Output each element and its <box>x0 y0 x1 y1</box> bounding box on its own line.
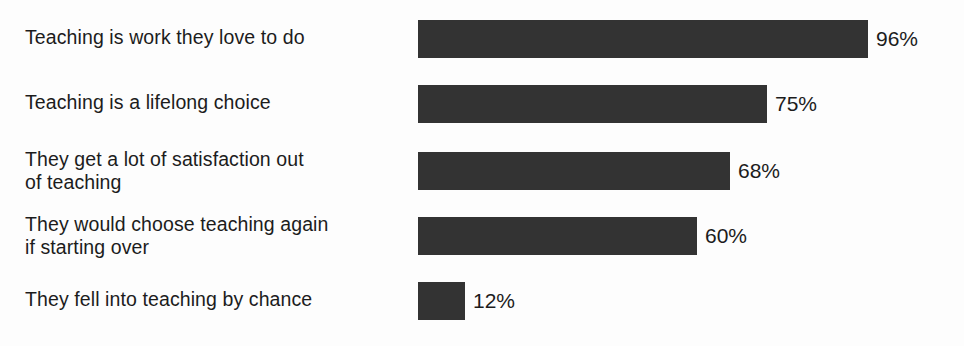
bar-track: 12% <box>418 282 465 320</box>
bar-track: 68% <box>418 152 730 190</box>
bar-row: They get a lot of satisfaction out of te… <box>0 152 964 217</box>
bar-row: They fell into teaching by chance 12% <box>0 282 964 346</box>
bar-category-label: They would choose teaching again if star… <box>25 213 410 259</box>
bar-value-label: 60% <box>697 224 747 248</box>
horizontal-bar-chart: Teaching is work they love to do 96% Tea… <box>0 0 964 346</box>
bar-category-label: They fell into teaching by chance <box>25 288 410 311</box>
bar-track: 96% <box>418 20 868 58</box>
bar-row: They would choose teaching again if star… <box>0 217 964 282</box>
bar-row: Teaching is work they love to do 96% <box>0 20 964 85</box>
bar-value-label: 68% <box>730 159 780 183</box>
bar-row: Teaching is a lifelong choice 75% <box>0 85 964 150</box>
bar-value-label: 75% <box>767 92 817 116</box>
bar-category-label: Teaching is work they love to do <box>25 26 410 49</box>
bar-value-label: 12% <box>465 289 515 313</box>
bar-value-label: 96% <box>868 27 918 51</box>
bar-fill <box>418 152 730 190</box>
bar-fill <box>418 217 697 255</box>
bar-fill <box>418 282 465 320</box>
bar-fill <box>418 20 868 58</box>
bar-category-label: Teaching is a lifelong choice <box>25 91 410 114</box>
bar-track: 60% <box>418 217 697 255</box>
bar-fill <box>418 85 767 123</box>
bar-track: 75% <box>418 85 767 123</box>
bar-category-label: They get a lot of satisfaction out of te… <box>25 148 410 194</box>
